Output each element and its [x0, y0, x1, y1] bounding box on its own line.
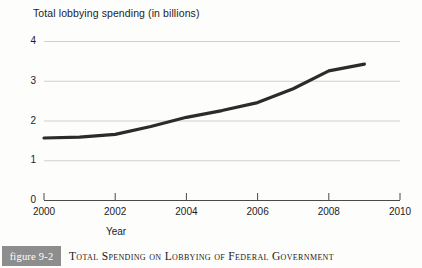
y-tick-label-1: 1: [20, 154, 36, 165]
x-tick-label-2010: 2010: [380, 206, 420, 217]
figure-number-badge: figure 9-2: [2, 246, 61, 266]
x-axis-label-wrap: Year: [0, 226, 422, 237]
x-tick-label-2004: 2004: [166, 206, 206, 217]
x-tick-label-2002: 2002: [95, 206, 135, 217]
y-tick-label-0: 0: [20, 194, 36, 205]
figure-container: Total lobbying spending (in billions) 01…: [0, 0, 422, 268]
x-tick-marks-group: [44, 193, 400, 200]
x-tick-label-2008: 2008: [309, 206, 349, 217]
plot-area: 01234 200020022004200620082010 Year: [0, 0, 422, 245]
y-tick-label-3: 3: [20, 75, 36, 86]
figure-caption-title: Total Spending on Lobbying of Federal Go…: [61, 246, 422, 266]
x-tick-label-2006: 2006: [238, 206, 278, 217]
y-tick-label-4: 4: [20, 35, 36, 46]
x-tick-label-2000: 2000: [24, 206, 64, 217]
gridlines-group: [44, 42, 400, 161]
x-axis-label: Year: [106, 226, 126, 237]
data-line-series-0: [44, 64, 364, 138]
figure-caption-bar: figure 9-2 Total Spending on Lobbying of…: [0, 246, 422, 266]
y-tick-label-2: 2: [20, 115, 36, 126]
